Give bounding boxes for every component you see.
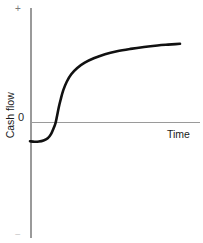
cash-flow-curve-svg — [0, 0, 203, 243]
cash-flow-chart: + 0 − Cash flow Time — [0, 0, 203, 243]
cash-flow-curve-line — [30, 44, 180, 142]
